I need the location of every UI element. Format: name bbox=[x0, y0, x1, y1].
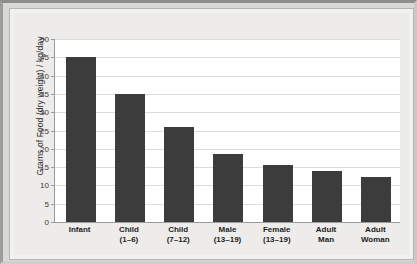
y-tick-mark bbox=[51, 39, 55, 40]
figure-inner-frame: Grams of Food (dry weight) / kg/day 0510… bbox=[9, 8, 414, 260]
bar-slot bbox=[105, 39, 154, 222]
y-tick-mark bbox=[51, 185, 55, 186]
x-axis-label: Infant bbox=[55, 225, 104, 245]
x-axis-label-line1: Female bbox=[263, 225, 291, 234]
y-tick-mark bbox=[51, 57, 55, 58]
bar-chart: Grams of Food (dry weight) / kg/day 0510… bbox=[14, 13, 409, 255]
bar bbox=[66, 57, 96, 222]
bar bbox=[361, 177, 391, 222]
x-axis-label-line2: Woman bbox=[351, 235, 400, 245]
y-tick-label: 50 bbox=[40, 35, 49, 44]
y-tick-label: 25 bbox=[40, 126, 49, 135]
y-tick-mark bbox=[51, 76, 55, 77]
x-axis-label-line2: (1–6) bbox=[104, 235, 153, 245]
bar-slot bbox=[352, 39, 401, 222]
y-tick-mark bbox=[51, 204, 55, 205]
bar bbox=[312, 171, 342, 222]
y-tick-mark bbox=[51, 149, 55, 150]
x-axis-label-line2: (13–19) bbox=[252, 235, 301, 245]
bar bbox=[115, 94, 145, 222]
bar bbox=[263, 165, 293, 222]
bar-slot bbox=[56, 39, 105, 222]
x-axis-label: Child(1–6) bbox=[104, 225, 153, 245]
y-tick-label: 5 bbox=[45, 199, 49, 208]
bar-slot bbox=[155, 39, 204, 222]
y-tick-label: 30 bbox=[40, 108, 49, 117]
x-axis-label: Female(13–19) bbox=[252, 225, 301, 245]
plot-area: 05101520253035404550 bbox=[54, 39, 400, 223]
bar bbox=[213, 154, 243, 222]
x-axis-label-line2: (13–19) bbox=[203, 235, 252, 245]
bar-slot bbox=[204, 39, 253, 222]
y-tick-mark bbox=[51, 94, 55, 95]
x-axis-label-line1: Child bbox=[168, 225, 188, 234]
x-axis-category-labels: InfantChild(1–6)Child(7–12)Male(13–19)Fe… bbox=[55, 225, 400, 245]
bar-slot bbox=[302, 39, 351, 222]
bars-group bbox=[56, 39, 401, 222]
x-axis-label: Male(13–19) bbox=[203, 225, 252, 245]
y-tick-label: 20 bbox=[40, 144, 49, 153]
x-axis-label: Child(7–12) bbox=[154, 225, 203, 245]
y-tick-label: 45 bbox=[40, 53, 49, 62]
x-axis-label-line2: Man bbox=[301, 235, 350, 245]
y-tick-mark bbox=[51, 222, 55, 223]
y-tick-label: 15 bbox=[40, 163, 49, 172]
y-tick-label: 35 bbox=[40, 89, 49, 98]
x-axis-label: AdultMan bbox=[301, 225, 350, 245]
x-axis-label-line1: Infant bbox=[69, 225, 91, 234]
y-tick-mark bbox=[51, 112, 55, 113]
bar-slot bbox=[253, 39, 302, 222]
x-axis-label-line1: Adult bbox=[365, 225, 385, 234]
y-tick-label: 40 bbox=[40, 71, 49, 80]
bar bbox=[164, 127, 194, 222]
x-axis-label: AdultWoman bbox=[351, 225, 400, 245]
figure-outer-frame: Grams of Food (dry weight) / kg/day 0510… bbox=[0, 0, 417, 264]
x-axis-label-line1: Male bbox=[219, 225, 237, 234]
x-axis-label-line1: Child bbox=[119, 225, 139, 234]
x-axis-label-line2: (7–12) bbox=[154, 235, 203, 245]
y-tick-label: 10 bbox=[40, 181, 49, 190]
x-axis-label-line1: Adult bbox=[316, 225, 336, 234]
y-tick-mark bbox=[51, 167, 55, 168]
y-tick-label: 0 bbox=[45, 218, 49, 227]
y-tick-mark bbox=[51, 131, 55, 132]
